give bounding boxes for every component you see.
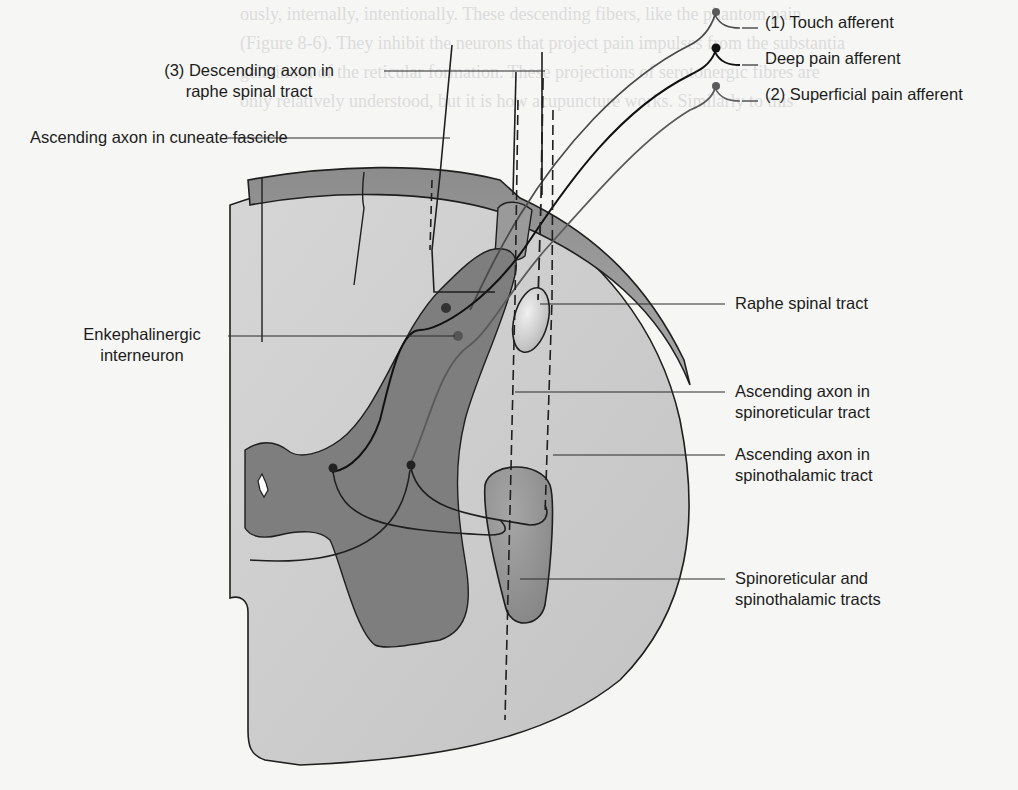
dorsal-horn-neuron (441, 303, 451, 313)
label-line: (3) Descending axon in (118, 60, 380, 81)
projection-neuron-1 (329, 464, 338, 473)
label-raphe-spinal-tract: Raphe spinal tract (735, 293, 868, 314)
deep-pain-afferent-soma (712, 44, 721, 53)
label-line: Ascending axon in (735, 381, 870, 402)
label-line: Spinoreticular and (735, 568, 881, 589)
label-spinothalamic-axon: Ascending axon in spinothalamic tract (735, 444, 873, 486)
label-spinoreticular-axon: Ascending axon in spinoreticular tract (735, 381, 870, 423)
label-descending-axon: (3) Descending axon in raphe spinal trac… (118, 60, 380, 102)
label-line: spinothalamic tracts (735, 589, 881, 610)
label-cuneate-fascicle: Ascending axon in cuneate fascicle (30, 127, 288, 148)
label-line: spinothalamic tract (735, 465, 873, 486)
touch-afferent-soma (712, 8, 720, 16)
label-line: Ascending axon in (735, 444, 873, 465)
label-touch-afferent: (1) Touch afferent (765, 12, 894, 33)
label-line: Enkephalinergic (62, 324, 222, 345)
label-enkephalinergic-interneuron: Enkephalinergic interneuron (62, 324, 222, 366)
label-spinoreticular-spinothalamic-tracts: Spinoreticular and spinothalamic tracts (735, 568, 881, 610)
label-superficial-pain-afferent: (2) Superficial pain afferent (765, 84, 963, 105)
label-line: spinoreticular tract (735, 402, 870, 423)
label-line: interneuron (62, 345, 222, 366)
label-line: raphe spinal tract (118, 81, 380, 102)
label-deep-pain-afferent: Deep pain afferent (765, 48, 900, 69)
